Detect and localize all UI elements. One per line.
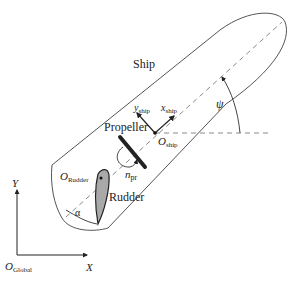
n-pr-label: npr <box>125 168 138 182</box>
y-ship-label: yship <box>133 102 151 115</box>
o-rudder-label: ORudder <box>60 170 89 184</box>
rudder-label: Rudder <box>109 190 144 204</box>
propeller-blade <box>120 137 145 167</box>
ship-coordinate-diagram: Ship Propeller Rudder ψ α yship xship Os… <box>0 0 297 282</box>
o-rudder-point <box>100 177 103 180</box>
global-x-label: X <box>85 261 94 273</box>
o-ship-label: Oship <box>158 135 178 149</box>
psi-label: ψ <box>216 97 224 111</box>
global-y-label: Y <box>12 177 20 189</box>
alpha-label: α <box>75 207 81 218</box>
o-global-label: OGlobal <box>5 260 32 274</box>
x-ship-label: xship <box>160 102 178 115</box>
alpha-angle-arc <box>66 210 97 224</box>
ship-label: Ship <box>133 57 155 71</box>
propeller-label: Propeller <box>104 120 148 134</box>
o-ship-origin-point <box>153 131 157 135</box>
x-ship-axis-arrow <box>155 116 174 133</box>
propeller-rotation-arc <box>117 147 137 167</box>
